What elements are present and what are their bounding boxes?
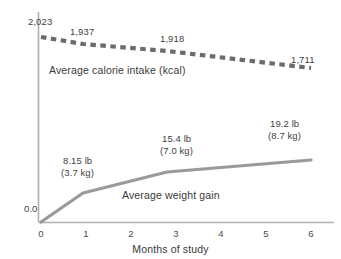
weight-label-month-3-lb: 15.4 lb (162, 133, 191, 145)
calorie-label-month-3: 1,918 (160, 33, 184, 45)
weight-label-month-6-kg: (8.7 kg) (268, 130, 301, 142)
x-tick-5: 5 (256, 228, 276, 239)
calorie-label-month-6: 1,711 (291, 54, 315, 66)
series-label-weight-gain: Average weight gain (122, 189, 220, 201)
calorie-label-month-0: 2,023 (28, 16, 52, 28)
x-tick-0: 0 (31, 228, 51, 239)
x-axis-title: Months of study (0, 243, 341, 255)
calorie-label-month-1: 1,937 (70, 26, 94, 38)
weight-label-month-1-kg: (3.7 kg) (61, 167, 94, 179)
weight-label-month-1-lb: 8.15 lb (63, 155, 92, 167)
x-tick-1: 1 (76, 228, 96, 239)
weight-label-month-6-lb: 19.2 lb (270, 118, 299, 130)
x-tick-4: 4 (211, 228, 231, 239)
weight-label-month-0: 0.0 (24, 203, 38, 215)
x-tick-2: 2 (121, 228, 141, 239)
x-tick-6: 6 (301, 228, 321, 239)
series-label-calorie-intake: Average calorie intake (kcal) (49, 64, 186, 76)
x-tick-3: 3 (166, 228, 186, 239)
chart-container: 2,023 1,937 1,918 1,711 Average calorie … (0, 0, 341, 259)
weight-label-month-3-kg: (7.0 kg) (160, 145, 193, 157)
